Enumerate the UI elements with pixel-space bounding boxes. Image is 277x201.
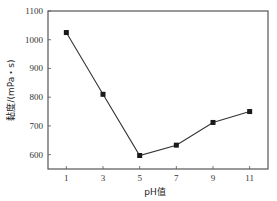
plot-frame	[48, 11, 268, 169]
y-tick-label: 600	[30, 150, 44, 160]
x-tick-label: 3	[101, 173, 106, 183]
x-axis-title: pH值	[144, 186, 165, 197]
x-tick-label: 9	[211, 173, 216, 183]
x-tick-label: 11	[245, 173, 254, 183]
data-series	[64, 30, 252, 158]
series-line	[66, 33, 249, 156]
y-tick-label: 1000	[25, 35, 44, 45]
y-axis-title: 黏度/(mPa・s)	[5, 59, 16, 120]
y-tick-label: 700	[30, 121, 44, 131]
y-tick-label: 1100	[25, 6, 43, 16]
data-point-marker	[137, 153, 142, 158]
y-axis-ticks: 60070080090010001100	[25, 6, 51, 160]
x-tick-label: 5	[137, 173, 142, 183]
viscosity-ph-line-chart: 60070080090010001100 1357911 pH值 黏度/(mPa…	[0, 0, 277, 201]
x-tick-label: 1	[64, 173, 69, 183]
y-tick-label: 800	[30, 92, 44, 102]
plot-border	[48, 11, 268, 169]
data-point-marker	[174, 143, 179, 148]
data-point-marker	[211, 120, 216, 125]
y-tick-label: 900	[30, 63, 44, 73]
x-tick-label: 7	[174, 173, 179, 183]
data-point-marker	[64, 30, 69, 35]
data-point-marker	[247, 109, 252, 114]
data-point-marker	[101, 92, 106, 97]
